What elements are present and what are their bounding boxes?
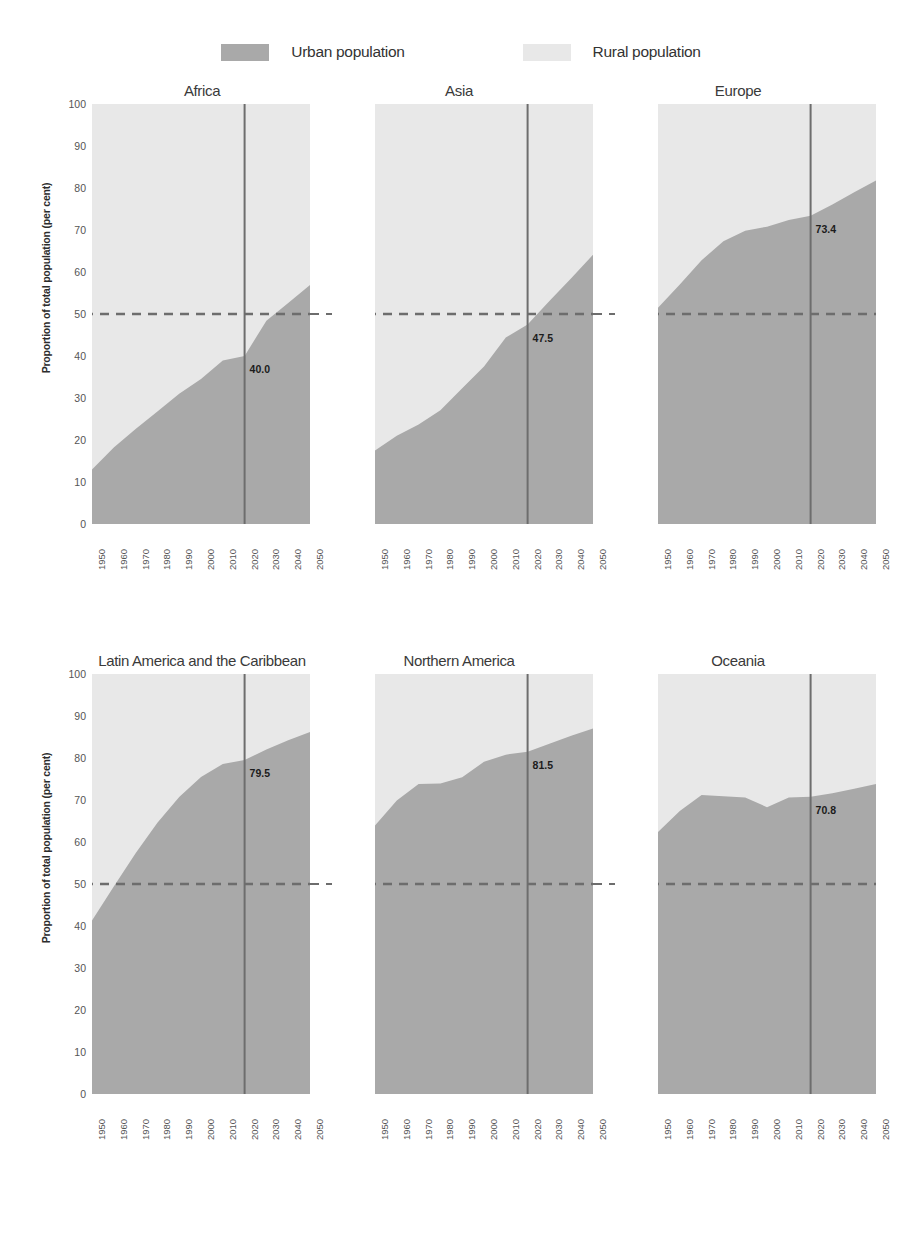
x-axis-tick: 2050	[880, 549, 891, 570]
x-axis-tick: 2020	[532, 549, 543, 570]
x-axis-tick: 2040	[575, 549, 586, 570]
panel-value-label: 70.8	[816, 804, 836, 816]
plot-area	[375, 104, 593, 524]
x-axis-tick: 2000	[488, 549, 499, 570]
x-axis-tick: 1970	[423, 1119, 434, 1140]
y-axis-tick: 70	[50, 224, 86, 236]
x-axis-tick: 2010	[793, 549, 804, 570]
x-axis-tick: 1950	[662, 1119, 673, 1140]
panel-oceania: Oceania70.819501960197019801990200020102…	[588, 648, 878, 1106]
x-axis-tick: 1990	[466, 549, 477, 570]
x-axis-tick: 1990	[749, 549, 760, 570]
plot-area	[92, 674, 310, 1094]
x-axis-tick: 2050	[597, 1119, 608, 1140]
x-axis-ticks: 1950196019701980199020002010202020302040…	[375, 1094, 593, 1144]
y-axis-tick: 40	[50, 920, 86, 932]
x-axis-ticks: 1950196019701980199020002010202020302040…	[375, 524, 593, 574]
panel-value-label: 73.4	[816, 223, 836, 235]
x-axis-tick: 2020	[532, 1119, 543, 1140]
x-axis-tick: 1960	[118, 549, 129, 570]
x-axis-tick: 1980	[161, 549, 172, 570]
x-axis-tick: 2020	[815, 1119, 826, 1140]
x-axis-tick: 2050	[597, 549, 608, 570]
y-axis-tick: 50	[50, 878, 86, 890]
x-axis-tick: 1950	[662, 549, 673, 570]
x-axis-tick: 1970	[423, 549, 434, 570]
x-axis-tick: 2030	[553, 1119, 564, 1140]
y-axis-tick: 90	[50, 710, 86, 722]
x-axis-tick: 1980	[727, 549, 738, 570]
panel-latin-america-and-the-caribbean: Latin America and the CaribbeanProportio…	[22, 648, 312, 1106]
y-axis-tick: 20	[50, 434, 86, 446]
x-axis-tick: 2000	[488, 1119, 499, 1140]
plot-zone: 81.5195019601970198019902000201020202030…	[305, 674, 595, 1106]
x-axis-tick: 1970	[706, 549, 717, 570]
x-axis-tick: 1990	[183, 549, 194, 570]
x-axis-tick: 2040	[858, 1119, 869, 1140]
y-axis-tick: 50	[50, 308, 86, 320]
panel-value-label: 40.0	[250, 363, 270, 375]
y-axis-tick: 0	[50, 518, 86, 530]
x-axis-tick: 2010	[793, 1119, 804, 1140]
x-axis-tick: 1950	[379, 549, 390, 570]
x-axis-tick: 1960	[401, 549, 412, 570]
panel-value-label: 81.5	[533, 759, 553, 771]
plot-area	[658, 674, 876, 1094]
x-axis-tick: 2010	[510, 549, 521, 570]
y-axis-tick: 30	[50, 392, 86, 404]
panel-value-label: 47.5	[533, 332, 553, 344]
x-axis-ticks: 1950196019701980199020002010202020302040…	[92, 524, 310, 574]
x-axis-tick: 2000	[205, 1119, 216, 1140]
legend-label-rural: Rural population	[593, 43, 701, 61]
x-axis-tick: 1960	[684, 549, 695, 570]
plot-area	[375, 674, 593, 1094]
panel-value-label: 79.5	[250, 767, 270, 779]
panel-asia: Asia47.519501960197019801990200020102020…	[305, 78, 595, 536]
x-axis-ticks: 1950196019701980199020002010202020302040…	[92, 1094, 310, 1144]
plot-zone: 73.4195019601970198019902000201020202030…	[588, 104, 878, 536]
x-axis-tick: 1990	[749, 1119, 760, 1140]
x-axis-tick: 1980	[161, 1119, 172, 1140]
x-axis-tick: 2030	[553, 549, 564, 570]
y-axis-tick: 20	[50, 1004, 86, 1016]
x-axis-tick: 2030	[836, 549, 847, 570]
plot-zone: 70.8195019601970198019902000201020202030…	[588, 674, 878, 1106]
x-axis-ticks: 1950196019701980199020002010202020302040…	[658, 524, 876, 574]
y-axis-tick: 100	[50, 98, 86, 110]
legend-swatch-urban	[221, 44, 269, 61]
x-axis-tick: 2000	[771, 549, 782, 570]
plot-zone: 47.5195019601970198019902000201020202030…	[305, 104, 595, 536]
y-axis-tick: 60	[50, 266, 86, 278]
y-axis-tick: 0	[50, 1088, 86, 1100]
plot-area	[658, 104, 876, 524]
panel-northern-america: Northern America81.519501960197019801990…	[305, 648, 595, 1106]
x-axis-tick: 1960	[401, 1119, 412, 1140]
legend-swatch-rural	[523, 44, 571, 61]
x-axis-tick: 2040	[292, 1119, 303, 1140]
panel-title: Northern America	[305, 648, 595, 674]
plot-zone: Proportion of total population (per cent…	[22, 104, 312, 536]
x-axis-tick: 2020	[249, 1119, 260, 1140]
x-axis-tick: 2040	[292, 549, 303, 570]
x-axis-tick: 2050	[880, 1119, 891, 1140]
y-axis-title: Proportion of total population (per cent…	[40, 78, 52, 478]
y-axis-tick: 40	[50, 350, 86, 362]
x-axis-tick: 2020	[815, 549, 826, 570]
x-axis-tick: 2030	[270, 549, 281, 570]
plot-area	[92, 104, 310, 524]
panel-africa: AfricaProportion of total population (pe…	[22, 78, 312, 536]
x-axis-tick: 1990	[183, 1119, 194, 1140]
legend-item-urban: Urban population	[221, 43, 404, 61]
legend-label-urban: Urban population	[291, 43, 404, 61]
x-axis-tick: 1990	[466, 1119, 477, 1140]
y-axis-tick: 100	[50, 668, 86, 680]
x-axis-tick: 1970	[706, 1119, 717, 1140]
panel-title: Asia	[305, 78, 595, 104]
x-axis-tick: 1950	[96, 1119, 107, 1140]
legend-item-rural: Rural population	[523, 43, 701, 61]
x-axis-tick: 1960	[684, 1119, 695, 1140]
x-axis-tick: 2010	[227, 549, 238, 570]
panel-title: Europe	[588, 78, 878, 104]
x-axis-tick: 2050	[314, 549, 325, 570]
x-axis-tick: 2020	[249, 549, 260, 570]
